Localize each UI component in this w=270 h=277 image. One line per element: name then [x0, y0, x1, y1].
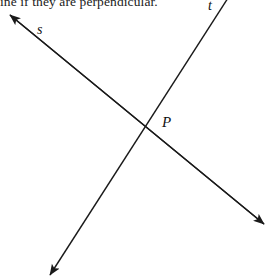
intersection-point-label-p: P	[162, 114, 171, 131]
line-s-arrow-lower	[10, 15, 264, 224]
line-label-s: s	[37, 22, 42, 38]
geometry-figure: ine if they are perpendicular. s t P	[0, 0, 270, 277]
line-label-t: t	[208, 0, 212, 14]
intersecting-lines-diagram	[0, 0, 270, 277]
line-t	[50, 0, 228, 275]
